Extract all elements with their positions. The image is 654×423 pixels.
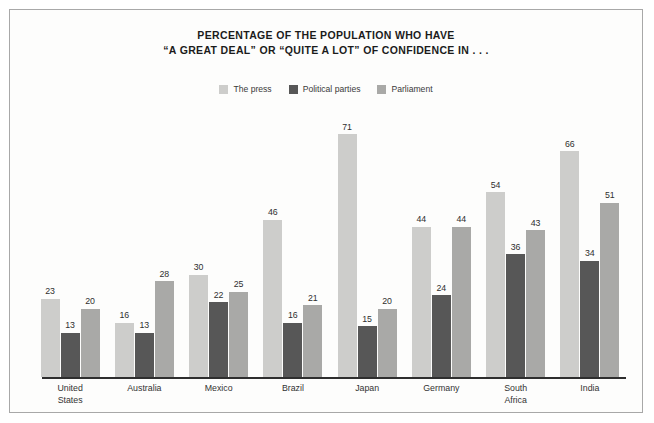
x-axis-label-line: Mexico [182,383,256,395]
bar-value-label: 15 [362,314,372,325]
bar-value-label: 66 [565,139,575,150]
bar-column: 36 [506,106,525,377]
chart-frame: PERCENTAGE OF THE POPULATION WHO HAVE “A… [9,9,643,413]
legend-label-parliament: Parliament [391,84,432,94]
bar-column: 54 [486,106,505,377]
x-axis-label: SouthAfrica [479,383,553,406]
bar-value-label: 25 [234,279,244,290]
bar-value-label: 44 [456,214,466,225]
bar [378,309,397,378]
bar-column: 16 [283,106,302,377]
bar [229,292,248,378]
legend-swatch-political-parties [289,85,298,94]
bar-group: 231320 [33,106,107,377]
legend-label-the-press: The press [233,84,271,94]
bar [358,326,377,377]
bar-value-label: 46 [268,207,278,218]
legend-swatch-the-press [219,85,228,94]
bar-column: 44 [412,106,431,377]
bar [412,227,431,378]
bar [283,323,302,378]
bar [209,302,228,377]
x-axis-label-line: South [479,383,553,395]
bar-column: 15 [358,106,377,377]
bar-group: 161328 [107,106,181,377]
bar-value-label: 51 [605,190,615,201]
bar-group: 543643 [479,106,553,377]
x-axis-label-line: Africa [479,395,553,407]
bar-value-label: 22 [214,290,224,301]
chart-legend: The press Political parties Parliament [10,84,642,94]
chart-title-line-1: PERCENTAGE OF THE POPULATION WHO HAVE [10,28,642,43]
bar-value-label: 28 [159,269,169,280]
x-axis-label-line: Japan [330,383,404,395]
legend-item-political-parties: Political parties [289,84,361,94]
plot-area: 2313201613283022254616217115204424445436… [33,106,627,379]
bar-value-label: 36 [511,242,521,253]
bar-column: 46 [263,106,282,377]
x-axis-label: Brazil [256,383,330,406]
x-axis-label-line: India [553,383,627,395]
bar-column: 22 [209,106,228,377]
bar-column: 34 [580,106,599,377]
x-axis-label: Germany [404,383,478,406]
legend-item-parliament: Parliament [377,84,432,94]
bar-column: 71 [338,106,357,377]
bar-value-label: 71 [342,122,352,133]
chart-title: PERCENTAGE OF THE POPULATION WHO HAVE “A… [10,28,642,58]
x-axis-label: India [553,383,627,406]
bar [115,323,134,378]
bar [263,220,282,378]
x-axis-label-line: Brazil [256,383,330,395]
chart-title-line-2: “A GREAT DEAL” OR “QUITE A LOT” OF CONFI… [10,43,642,58]
bar [600,203,619,378]
bar-value-label: 43 [531,218,541,229]
bar-column: 13 [135,106,154,377]
legend-swatch-parliament [377,85,386,94]
x-axis-label: Mexico [182,383,256,406]
x-axis-label-line: United [33,383,107,395]
bar-column: 24 [432,106,451,377]
bar [506,254,525,377]
bar-value-label: 21 [308,293,318,304]
bar-group: 302225 [182,106,256,377]
bar [526,230,545,377]
x-axis-label: UnitedStates [33,383,107,406]
bar-group: 663451 [553,106,627,377]
x-axis-labels: UnitedStatesAustraliaMexicoBrazilJapanGe… [33,383,627,406]
bar-value-label: 13 [65,320,75,331]
bar-value-label: 20 [85,296,95,307]
bar [81,309,100,378]
bar-value-label: 54 [491,180,501,191]
bar-value-label: 23 [45,286,55,297]
bar-column: 66 [560,106,579,377]
x-axis-line [42,377,626,379]
bar-column: 30 [189,106,208,377]
x-axis-label: Japan [330,383,404,406]
bar [61,333,80,378]
bar-column: 43 [526,106,545,377]
bar [41,299,60,378]
bar-value-label: 13 [139,320,149,331]
bar-column: 20 [378,106,397,377]
bar-column: 16 [115,106,134,377]
bar [452,227,471,378]
bar-value-label: 30 [194,262,204,273]
bar-column: 21 [303,106,322,377]
bar-column: 20 [81,106,100,377]
bar [432,295,451,377]
legend-label-political-parties: Political parties [303,84,361,94]
bar [189,275,208,378]
bar [155,281,174,377]
bar-column: 25 [229,106,248,377]
bar-column: 13 [61,106,80,377]
bar-value-label: 34 [585,248,595,259]
bar-value-label: 20 [382,296,392,307]
bar-value-label: 16 [119,310,129,321]
bar [135,333,154,378]
bar [303,305,322,377]
bar [580,261,599,378]
bar-column: 44 [452,106,471,377]
bar-value-label: 16 [288,310,298,321]
legend-item-the-press: The press [219,84,271,94]
